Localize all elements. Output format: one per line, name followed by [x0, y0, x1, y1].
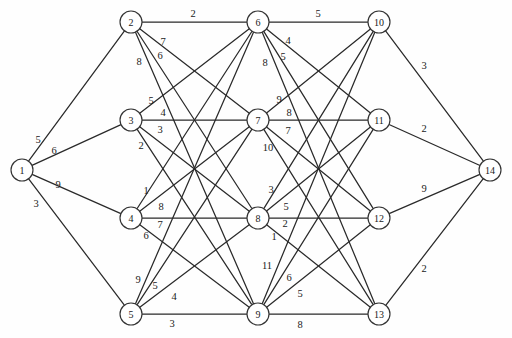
edge-weight-label: 3	[33, 198, 38, 209]
node-label: 1	[20, 165, 25, 176]
edge-weight-label: 5	[283, 201, 288, 212]
graph-edge	[386, 179, 484, 306]
edge-weight-label: 8	[136, 56, 141, 67]
edge-weight-label: 5	[35, 134, 40, 145]
edge-weight-label: 3	[268, 184, 273, 195]
graph-edge	[389, 174, 480, 213]
graph-node-5[interactable]: 5	[120, 303, 142, 325]
edge-weight-label: 2	[190, 8, 195, 19]
edge-weight-label: 3	[157, 124, 162, 135]
edge-weight-label: 5	[148, 95, 153, 106]
graph-node-12[interactable]: 12	[368, 207, 390, 229]
graph-node-9[interactable]: 9	[247, 303, 269, 325]
edge-weight-label: 2	[138, 140, 143, 151]
edge-weight-label: 9	[135, 274, 140, 285]
edge-weight-label: 9	[421, 183, 426, 194]
node-label: 7	[256, 115, 261, 126]
edge-weight-label: 5	[280, 51, 285, 62]
edge-weight-label: 9	[276, 94, 281, 105]
edge-weight-label: 4	[160, 107, 166, 118]
edge-weight-label: 5	[315, 8, 320, 19]
edge-weight-label: 7	[157, 219, 162, 230]
edge-weight-label: 5	[152, 280, 157, 291]
graph-edge	[32, 125, 121, 166]
edge-weight-label: 8	[297, 319, 302, 330]
edges-layer	[29, 22, 484, 314]
graph-diagram-canvas: 5693276854321876954354589871035211165832…	[0, 0, 512, 338]
edge-weight-label: 11	[262, 260, 272, 271]
graph-edge	[29, 179, 125, 305]
edge-weight-label: 5	[297, 288, 302, 299]
graph-edge	[389, 125, 480, 166]
node-label: 13	[374, 309, 384, 320]
edge-weight-label: 6	[143, 230, 148, 241]
edge-weight-label: 3	[421, 60, 426, 71]
graph-node-10[interactable]: 10	[368, 11, 390, 33]
graph-edge	[386, 31, 484, 161]
graph-svg: 5693276854321876954354589871035211165832…	[0, 0, 512, 338]
edge-weight-label: 7	[285, 125, 290, 136]
edge-weight-label: 2	[282, 218, 287, 229]
graph-edge	[32, 174, 121, 213]
edge-weight-label: 2	[421, 123, 426, 134]
edge-weight-label: 2	[421, 263, 426, 274]
edge-weight-label: 7	[160, 36, 165, 47]
node-label: 9	[256, 309, 261, 320]
edge-weight-label: 4	[285, 35, 291, 46]
graph-node-7[interactable]: 7	[247, 109, 269, 131]
edge-weight-label: 6	[286, 272, 291, 283]
node-label: 14	[485, 165, 495, 176]
edge-weight-label: 1	[143, 185, 148, 196]
graph-node-3[interactable]: 3	[120, 109, 142, 131]
graph-node-14[interactable]: 14	[479, 159, 501, 181]
node-label: 2	[129, 17, 134, 28]
edge-weight-label: 6	[157, 50, 162, 61]
node-label: 6	[256, 17, 261, 28]
edge-weight-label: 1	[271, 231, 276, 242]
edge-weight-label: 8	[262, 57, 267, 68]
graph-node-8[interactable]: 8	[247, 207, 269, 229]
graph-node-13[interactable]: 13	[368, 303, 390, 325]
edge-labels-layer: 5693276854321876954354589871035211165832…	[33, 8, 426, 330]
node-label: 12	[374, 213, 384, 224]
node-label: 11	[374, 115, 384, 126]
node-label: 10	[374, 17, 384, 28]
node-label: 4	[129, 213, 134, 224]
edge-weight-label: 8	[286, 107, 291, 118]
edge-weight-label: 8	[158, 201, 163, 212]
graph-node-2[interactable]: 2	[120, 11, 142, 33]
nodes-layer: 1234567891011121314	[11, 11, 501, 325]
graph-node-1[interactable]: 1	[11, 159, 33, 181]
edge-weight-label: 9	[55, 179, 60, 190]
node-label: 3	[129, 115, 134, 126]
graph-edge	[29, 31, 125, 161]
node-label: 5	[129, 309, 134, 320]
edge-weight-label: 3	[169, 318, 174, 329]
edge-weight-label: 6	[51, 145, 56, 156]
graph-node-4[interactable]: 4	[120, 207, 142, 229]
graph-node-11[interactable]: 11	[368, 109, 390, 131]
node-label: 8	[256, 213, 261, 224]
graph-node-6[interactable]: 6	[247, 11, 269, 33]
edge-weight-label: 10	[263, 142, 274, 153]
edge-weight-label: 4	[171, 291, 177, 302]
